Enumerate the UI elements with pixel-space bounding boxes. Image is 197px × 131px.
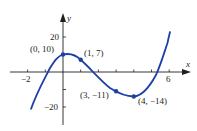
x-tick-label-neg2: −2 [21,74,31,84]
point-label-3-neg11: (3, −11) [80,90,109,100]
point-0-10 [61,52,65,56]
point-label-4-neg14: (4, −14) [138,96,167,106]
point-label-0-10: (0, 10) [30,44,54,54]
x-tick-label-6: 6 [166,74,171,84]
x-axis-label: x [185,59,190,69]
cubic-function-graph: −2 6 x 20 −20 y (0, 10) (1, 7) (3, −11) … [0,0,197,131]
point-3-neg11 [114,89,118,93]
y-axis: 20 −20 y [44,13,71,125]
y-axis-label: y [66,13,71,23]
y-tick-label-neg20: −20 [44,102,59,112]
point-4-neg14 [132,94,136,98]
point-label-1-7: (1, 7) [84,48,104,58]
point-1-7 [79,58,83,62]
y-tick-label-20: 20 [50,32,60,42]
